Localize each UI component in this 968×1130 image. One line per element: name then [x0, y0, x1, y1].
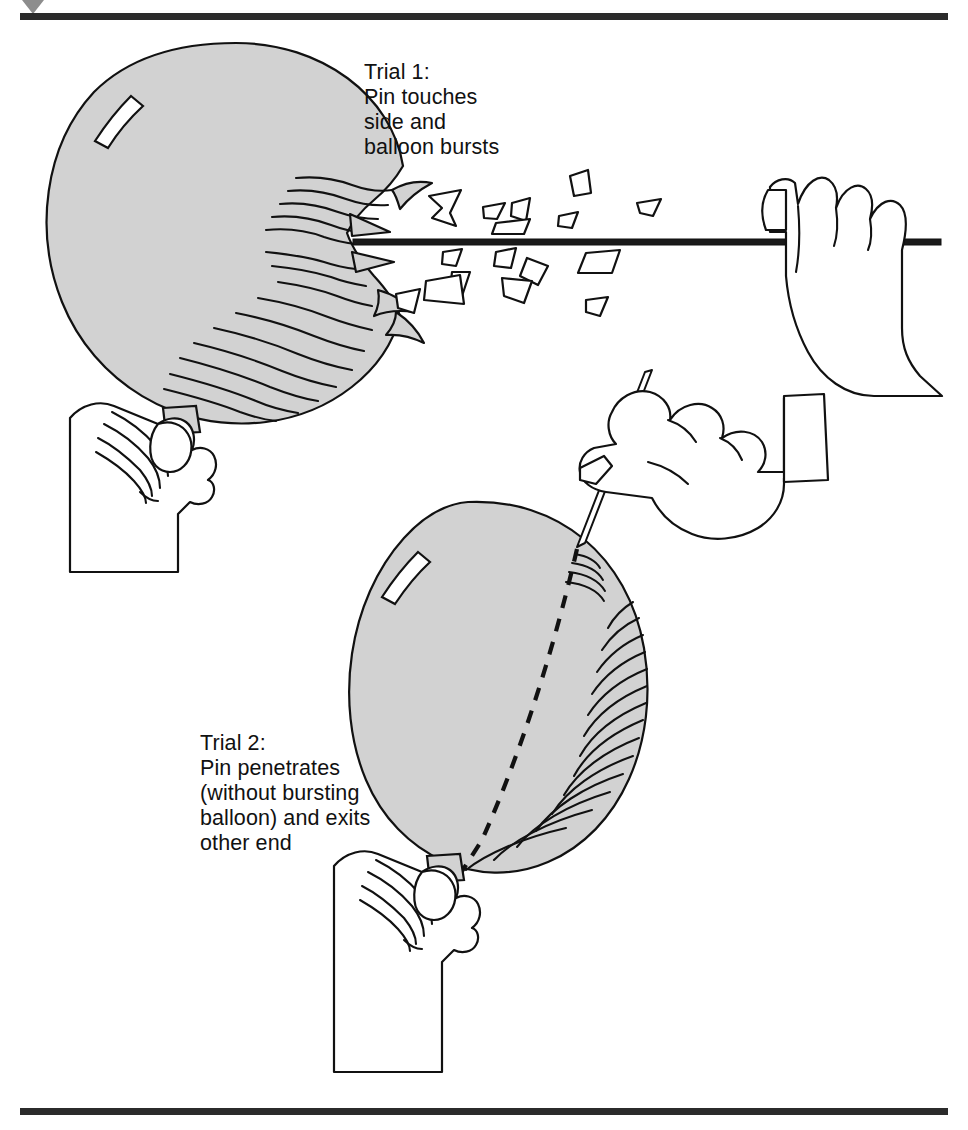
fist-holding-pin [580, 391, 828, 539]
trial-2-caption-line-1: Pin penetrates [200, 756, 340, 780]
balloon-intact [349, 502, 647, 873]
left-hand-holding-balloon-neck-2 [334, 851, 480, 1072]
balloon-bursting [47, 43, 403, 423]
trial-1-caption-line-1: Pin touches [364, 85, 477, 109]
trial-2-caption: Trial 2: Pin penetrates (without burstin… [200, 731, 370, 855]
trial-1-caption-line-0: Trial 1: [364, 60, 430, 84]
corner-arrow-mark [22, 0, 44, 14]
bottom-divider [20, 1108, 948, 1115]
trial-2-caption-line-0: Trial 2: [200, 731, 266, 755]
trial-1-panel: Trial 1: Pin touches side and balloon bu… [47, 43, 942, 572]
balloon-pin-illustration: Trial 1: Pin touches side and balloon bu… [0, 0, 968, 1130]
trial-2-caption-line-2: (without bursting [200, 781, 359, 805]
trial-2-panel: Trial 2: Pin penetrates (without burstin… [200, 370, 828, 1072]
trial-2-caption-line-3: balloon) and exits [200, 806, 370, 830]
trial-2-caption-line-4: other end [200, 831, 292, 855]
figure-root: Trial 1: Pin touches side and balloon bu… [0, 0, 968, 1130]
right-hand-holding-pin [762, 178, 942, 396]
trial-1-caption: Trial 1: Pin touches side and balloon bu… [364, 60, 499, 159]
left-hand-holding-balloon-neck-1 [70, 403, 216, 572]
trial-1-caption-line-3: balloon bursts [364, 135, 499, 159]
trial-1-caption-line-2: side and [364, 110, 446, 134]
top-divider [20, 13, 948, 20]
